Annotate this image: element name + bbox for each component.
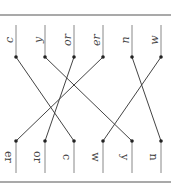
- top-dots: [14, 55, 163, 59]
- link-n: [132, 57, 161, 141]
- top-labels: c y or er n w: [3, 33, 161, 46]
- top-label-4: n: [119, 36, 132, 43]
- bottom-label-4: y: [118, 153, 131, 161]
- bottom-label-3: w: [89, 152, 102, 162]
- bottom-label-5: n: [147, 153, 160, 160]
- top-label-2: or: [61, 33, 74, 46]
- bottom-dots: [14, 139, 163, 143]
- connections: [16, 57, 161, 141]
- bottom-label-2: c: [60, 154, 73, 160]
- link-c: [16, 57, 74, 141]
- top-label-0: c: [3, 37, 16, 43]
- matching-diagram: c y or er n w er or c w y n: [0, 0, 171, 186]
- link-er: [16, 57, 103, 141]
- top-label-3: er: [90, 33, 103, 46]
- top-label-1: y: [32, 36, 45, 44]
- link-y: [45, 57, 132, 141]
- link-w: [103, 57, 161, 141]
- bottom-label-0: er: [2, 151, 15, 164]
- bottom-labels: er or c w y n: [2, 151, 160, 164]
- bottom-label-1: or: [31, 151, 44, 164]
- top-label-5: w: [148, 35, 161, 45]
